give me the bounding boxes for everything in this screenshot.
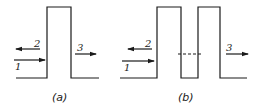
barrier-diagram: 2 1 3 (a) 2 1 3 (b) <box>0 0 256 108</box>
panel-a: 2 1 3 (a) <box>14 7 99 104</box>
single-barrier-profile <box>16 7 99 78</box>
panel-b: 2 1 3 (b) <box>120 7 248 104</box>
caption-a: (a) <box>52 91 67 104</box>
arrow-label-1: 1 <box>124 62 130 73</box>
arrow-label-3: 3 <box>226 42 232 53</box>
caption-b: (b) <box>178 91 194 104</box>
arrow-label-3: 3 <box>77 42 83 53</box>
arrow-label-2: 2 <box>144 38 151 49</box>
arrow-label-2: 2 <box>33 38 40 49</box>
arrow-label-1: 1 <box>15 61 21 72</box>
